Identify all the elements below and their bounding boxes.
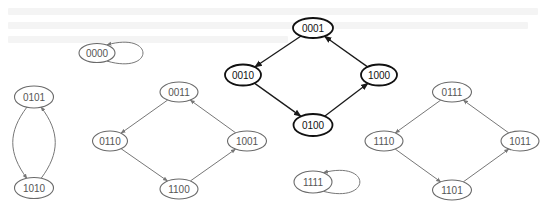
node-label: 0111 [442, 87, 463, 98]
state-node-1110: 1110 [365, 131, 403, 151]
state-node-0011: 0011 [160, 82, 198, 102]
node-label: 1010 [23, 183, 46, 194]
edge-1110-to-1101 [395, 149, 440, 182]
state-node-1000: 1000 [361, 65, 397, 86]
state-node-1001: 1001 [228, 131, 267, 151]
node-label: 1101 [441, 185, 463, 196]
edge-0010-to-0100 [254, 83, 301, 116]
nodes-layer: 0000010110100011011010011100000100101000… [15, 18, 540, 200]
state-transition-diagram: 0000010110100011011010011100000100101000… [0, 0, 547, 213]
edge-1001-to-0011 [190, 100, 235, 133]
state-node-0010: 0010 [225, 65, 261, 86]
state-node-0101: 0101 [15, 86, 54, 108]
node-label: 1100 [168, 184, 190, 195]
graph-canvas: 0000010110100011011010011100000100101000… [0, 0, 547, 213]
node-label: 0001 [302, 23, 325, 34]
state-node-0000: 0000 [79, 44, 115, 63]
edge-1010-to-0101 [41, 107, 55, 179]
node-label: 1000 [368, 70, 391, 81]
edge-0001-to-0010 [255, 36, 301, 67]
node-label: 0000 [86, 48, 109, 59]
state-node-1101: 1101 [433, 180, 472, 200]
state-node-1100: 1100 [160, 179, 198, 199]
state-node-0100: 0100 [294, 114, 333, 136]
state-node-0110: 0110 [93, 131, 128, 151]
state-node-0001: 0001 [293, 18, 333, 38]
edge-0100-to-1000 [325, 83, 368, 116]
edge-1100-to-1001 [190, 149, 235, 181]
edge-0110-to-1100 [121, 149, 167, 181]
node-label: 0011 [168, 87, 190, 98]
state-node-1011: 1011 [501, 131, 539, 151]
edge-1011-to-0111 [463, 100, 508, 133]
edge-1101-to-1011 [463, 149, 508, 182]
node-label: 0101 [23, 92, 46, 103]
node-label: 0010 [232, 70, 255, 81]
node-label: 0110 [99, 136, 121, 147]
edge-0111-to-1110 [395, 100, 440, 133]
node-label: 0100 [302, 120, 325, 131]
node-label: 1111 [303, 177, 323, 188]
edge-0101-to-1010 [13, 107, 27, 179]
state-node-0111: 0111 [433, 82, 472, 102]
node-label: 1011 [509, 136, 531, 147]
state-node-1010: 1010 [15, 178, 54, 199]
node-label: 1001 [236, 136, 259, 147]
node-label: 1110 [374, 136, 395, 147]
edge-1000-to-0001 [324, 36, 367, 67]
edge-0011-to-0110 [121, 100, 168, 133]
state-node-1111: 1111 [294, 171, 332, 193]
